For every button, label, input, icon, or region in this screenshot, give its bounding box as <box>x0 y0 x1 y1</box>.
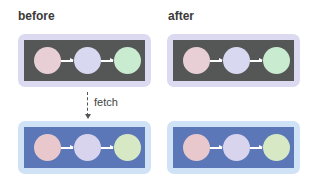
node-2 <box>223 47 250 74</box>
arrow-down-icon <box>85 114 91 119</box>
fetch-label: fetch <box>94 96 118 108</box>
after-blue-panel <box>167 121 300 174</box>
node-3 <box>114 134 141 161</box>
node-1 <box>183 47 210 74</box>
node-1 <box>34 47 61 74</box>
arrow-right-icon <box>250 147 262 149</box>
arrow-right-icon <box>210 147 222 149</box>
arrow-right-icon <box>61 60 73 62</box>
node-3 <box>263 134 290 161</box>
after-dark-panel <box>167 34 300 87</box>
node-3 <box>263 47 290 74</box>
before-title: before <box>18 9 55 23</box>
after-dark-pipeline <box>173 40 294 81</box>
before-dark-pipeline <box>24 40 145 81</box>
arrow-right-icon <box>101 147 113 149</box>
after-blue-pipeline <box>173 127 294 168</box>
node-2 <box>74 47 101 74</box>
arrow-right-icon <box>61 147 73 149</box>
arrow-right-icon <box>250 60 262 62</box>
arrow-right-icon <box>210 60 222 62</box>
before-blue-pipeline <box>24 127 145 168</box>
before-blue-panel <box>18 121 151 174</box>
node-3 <box>114 47 141 74</box>
arrow-right-icon <box>101 60 113 62</box>
node-1 <box>34 134 61 161</box>
before-dark-panel <box>18 34 151 87</box>
node-2 <box>74 134 101 161</box>
fetch-dashed-line <box>87 92 88 116</box>
node-1 <box>183 134 210 161</box>
after-title: after <box>168 9 194 23</box>
node-2 <box>223 134 250 161</box>
